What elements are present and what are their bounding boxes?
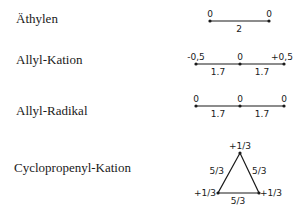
charge-label: 0: [207, 9, 213, 19]
atom-dot: [267, 19, 270, 22]
bond-order-label: 5/3: [210, 166, 224, 176]
charge-label: 0: [281, 94, 287, 104]
charge-label: 0: [237, 52, 243, 62]
allyl-radical-diagram: 0 0 0 1.7 1.7: [193, 94, 287, 119]
atom-dot: [208, 19, 211, 22]
bond-order-label: 5/3: [231, 196, 245, 206]
charge-label: 0: [193, 94, 199, 104]
atom-dot: [238, 104, 241, 107]
charge-label: +0,5: [271, 52, 293, 62]
charge-label: +1/3: [229, 141, 251, 151]
atom-dot: [238, 62, 241, 65]
bond-order-label: 2: [236, 24, 242, 34]
charge-label: 0: [266, 9, 272, 19]
ethylene-diagram: 0 0 2: [207, 9, 272, 34]
atom-dot: [194, 62, 197, 65]
bond-order-label: 1.7: [211, 67, 225, 77]
charge-label: 0: [237, 94, 243, 104]
allyl-cation-diagram: -0,5 0 +0,5 1.7 1.7: [187, 52, 293, 77]
cyclopropenyl-cation-diagram: +1/3 +1/3 +1/3 5/3 5/3 5/3: [194, 141, 282, 206]
bond-order-label: 1.7: [255, 67, 269, 77]
atom-dot: [194, 104, 197, 107]
bond-order-label: 5/3: [252, 166, 266, 176]
atom-dot: [238, 151, 241, 154]
bond-order-label: 1.7: [211, 109, 225, 119]
atom-dot: [282, 62, 285, 65]
charge-label: +1/3: [194, 188, 216, 198]
charge-label: +1/3: [260, 188, 282, 198]
huckel-diagrams: 0 0 2 -0,5 0 +0,5 1.7 1.7 0 0 0 1.7 1.7 …: [0, 0, 305, 207]
atom-dot: [282, 104, 285, 107]
atom-dot: [216, 191, 219, 194]
bond-order-label: 1.7: [255, 109, 269, 119]
charge-label: -0,5: [187, 52, 205, 62]
